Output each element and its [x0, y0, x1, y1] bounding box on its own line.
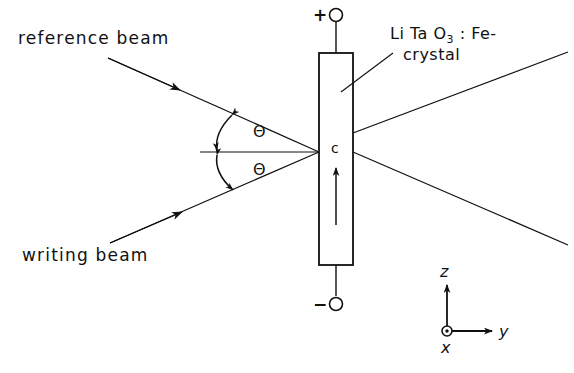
x-axis-dot — [445, 329, 448, 332]
x-axis-label: x — [441, 338, 451, 357]
positive-electrode — [330, 9, 343, 54]
crystal-formula-suffix: : Fe- — [454, 24, 497, 43]
crystal-formula-prefix: Li Ta O — [390, 24, 447, 43]
reference-beam-label: reference beam — [18, 28, 170, 48]
writing-beam-label: writing beam — [22, 245, 149, 265]
writing-beam-ray — [110, 152, 319, 243]
theta-lower-label: Θ — [253, 160, 266, 179]
optical-setup-diagram: reference beam writing beam Li Ta O3 : F… — [0, 0, 574, 373]
crystal-body — [319, 53, 353, 265]
diagram-vector-layer — [0, 0, 574, 373]
c-axis-label: c — [331, 140, 339, 156]
exit-beam-upper — [353, 52, 568, 133]
reference-beam-ray — [108, 58, 319, 152]
crystal-label-line1: Li Ta O3 : Fe- — [390, 24, 497, 46]
z-axis-label: z — [440, 262, 449, 281]
negative-terminal-circle — [330, 298, 343, 311]
negative-electrode — [330, 265, 343, 311]
angle-arc-lower — [217, 155, 233, 190]
angle-arc-upper — [217, 115, 232, 150]
coordinate-axes — [442, 285, 492, 336]
crystal-label-line2: crystal — [403, 45, 460, 64]
theta-upper-label: Θ — [253, 122, 266, 141]
positive-terminal-label: + — [313, 5, 328, 25]
y-axis-label: y — [499, 322, 509, 341]
negative-terminal-label: − — [313, 294, 328, 314]
exit-beam-lower — [353, 152, 568, 245]
positive-terminal-circle — [330, 9, 343, 22]
